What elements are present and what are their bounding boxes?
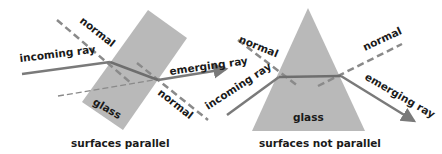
caption-not-parallel: surfaces not parallel (259, 137, 381, 149)
right-diagram: normal incoming ray normal emerging ray … (203, 8, 438, 149)
refraction-diagram: incoming ray normal emerging ray normal … (0, 0, 442, 154)
caption-parallel: surfaces parallel (71, 137, 170, 149)
refracted-ray (279, 76, 341, 77)
left-diagram: incoming ray normal emerging ray normal … (19, 10, 249, 149)
normal-bottom-label: normal (156, 86, 196, 121)
incoming-ray-label: incoming ray (19, 43, 97, 64)
incoming-ray (22, 62, 110, 74)
glass-label: glass (293, 111, 324, 123)
normal-right-label: normal (361, 24, 404, 52)
emerging-ray-label: emerging ray (169, 54, 249, 77)
